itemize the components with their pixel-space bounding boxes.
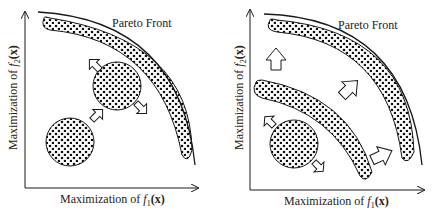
x-axis-prefix: Maximization of [284,194,367,208]
left-panel: Pareto Front Maximization of f1(x) Maxim… [0,0,221,220]
y-axis-fn: f [232,63,246,66]
population-circle-lower [46,118,94,166]
y-axis-label: Maximization of f2(x) [6,45,22,150]
right-diagram [222,0,443,220]
y-axis-sub: 2 [13,59,22,63]
x-axis-arg: (x) [375,194,389,208]
right-panel: Pareto Front Maximization of f1(x) Maxim… [222,0,443,220]
y-axis-prefix: Maximization of [6,67,20,150]
arrow-icon [368,142,396,169]
arrow-icon [87,104,108,125]
x-axis-prefix: Maximization of [60,192,143,206]
x-axis-label: Maximization of f1(x) [60,192,165,208]
arrow-icon [335,73,365,103]
y-axis-fn: f [6,63,20,66]
population-circle [270,120,318,168]
y-axis-arg: (x) [232,45,246,59]
pareto-front-label: Pareto Front [338,18,398,33]
y-axis-label: Maximization of f2(x) [232,45,248,150]
left-diagram [0,0,221,220]
x-axis-label: Maximization of f1(x) [284,194,389,210]
y-axis-prefix: Maximization of [232,67,246,150]
x-axis-arg: (x) [151,192,165,206]
y-axis-sub: 2 [239,59,248,63]
y-axis-arg: (x) [6,45,20,59]
pareto-front-label: Pareto Front [112,16,172,31]
arrow-icon [266,48,286,70]
